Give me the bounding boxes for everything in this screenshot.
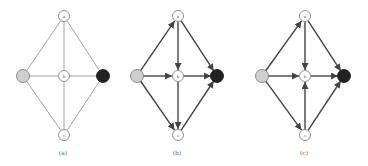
panel-a-undirected-graph: abc (a) bbox=[17, 11, 110, 157]
sink-node bbox=[338, 70, 351, 83]
panel-caption: (b) bbox=[173, 149, 182, 156]
panel-b-directed-graph: abc (b) bbox=[131, 11, 224, 157]
edge-s-a bbox=[265, 21, 301, 72]
nodes-group: abc bbox=[17, 11, 110, 141]
edge-a-t bbox=[67, 21, 100, 71]
source-node bbox=[17, 70, 30, 83]
node-label-b: b bbox=[177, 74, 180, 79]
edge-a-t bbox=[308, 21, 341, 71]
edge-c-t bbox=[67, 81, 100, 130]
edge-c-t bbox=[308, 81, 341, 130]
edge-s-c bbox=[26, 81, 60, 131]
edge-s-a bbox=[26, 21, 61, 72]
edge-s-a bbox=[140, 21, 175, 72]
panel-caption: (a) bbox=[59, 149, 67, 156]
node-label-b: b bbox=[304, 74, 307, 79]
edge-c-t bbox=[181, 81, 214, 130]
node-label-b: b bbox=[63, 74, 66, 79]
edge-a-t bbox=[181, 21, 214, 71]
source-node bbox=[256, 70, 269, 83]
panel-c-directed-graph: abc (c) bbox=[256, 11, 351, 157]
panel-caption: (c) bbox=[300, 149, 308, 156]
edge-s-c bbox=[140, 81, 174, 131]
edge-s-c bbox=[265, 80, 301, 130]
sink-node bbox=[211, 70, 224, 83]
sink-node bbox=[97, 70, 110, 83]
source-node bbox=[131, 70, 144, 83]
graph-diagram: abc (a) abc (b) abc (c) bbox=[0, 0, 368, 166]
